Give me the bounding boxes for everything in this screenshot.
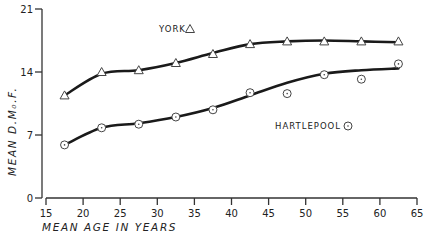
circle-marker-dot [212,109,214,111]
circle-marker-dot [323,74,325,76]
x-tick-label: 50 [299,208,312,219]
x-axis-title: MEAN AGE IN YEARS [42,221,177,233]
circle-marker-dot [361,78,363,80]
triangle-icon [186,25,195,33]
york-curve [65,41,399,96]
y-tick-label: 21 [20,4,33,15]
x-tick-label: 40 [225,208,238,219]
hartlepool-legend: HARTLEPOOL [275,121,352,131]
y-axis-title: MEAN D.M₀.F. [6,87,18,176]
circle-dot [347,125,349,127]
y-tick-label: 7 [27,130,33,141]
circle-marker-dot [175,116,177,118]
circle-marker-dot [398,63,400,65]
circle-marker-dot [286,93,288,95]
circle-marker-dot [64,144,66,146]
x-tick-label: 20 [77,208,90,219]
circle-marker-dot [138,123,140,125]
y-ticks: 071421 [20,4,42,204]
line-chart: 071421 1520253035404550556065 YORK HARTL… [0,0,431,239]
x-tick-label: 45 [262,208,275,219]
x-tick-label: 30 [151,208,164,219]
y-tick-label: 14 [20,67,33,78]
circle-marker-dot [249,92,251,94]
hartlepool-curve [65,68,399,144]
triangle-marker [394,37,403,45]
x-ticks: 1520253035404550556065 [40,198,424,219]
data-markers [60,37,403,149]
circle-marker-dot [101,127,103,129]
hartlepool-label: HARTLEPOOL [275,121,341,131]
x-tick-label: 60 [374,208,387,219]
y-tick-label: 0 [27,193,33,204]
x-tick-label: 25 [114,208,127,219]
x-tick-label: 55 [336,208,349,219]
x-tick-label: 15 [40,208,53,219]
x-tick-label: 35 [188,208,201,219]
x-tick-label: 65 [411,208,424,219]
triangle-marker [97,68,106,76]
york-label: YORK [158,24,186,34]
york-legend: YORK [158,24,195,34]
